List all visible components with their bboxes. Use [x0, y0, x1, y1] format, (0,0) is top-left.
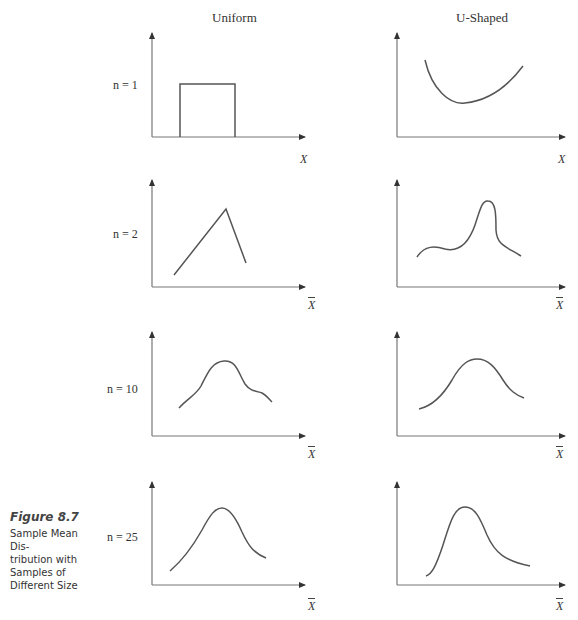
curve-ushaped-n25: [426, 507, 530, 576]
curve-ushaped-n2: [417, 201, 521, 257]
axes-uniform-n25: [152, 482, 305, 585]
axes-uniform-n2: [152, 180, 305, 287]
charts-canvas: [0, 0, 578, 620]
axes-ushaped-n25: [397, 482, 565, 585]
curve-uniform-n2: [174, 209, 246, 275]
curve-ushaped-n10: [419, 359, 524, 409]
axes-ushaped-n10: [397, 332, 565, 436]
curve-uniform-n10: [179, 361, 272, 408]
curve-ushaped-n1: [425, 60, 523, 103]
axes-uniform-n1: [152, 33, 305, 137]
curve-uniform-n1: [180, 84, 235, 137]
axes-ushaped-n2: [397, 180, 565, 287]
curve-uniform-n25: [170, 508, 266, 571]
axes-uniform-n10: [152, 332, 305, 436]
axes-ushaped-n1: [397, 33, 565, 137]
